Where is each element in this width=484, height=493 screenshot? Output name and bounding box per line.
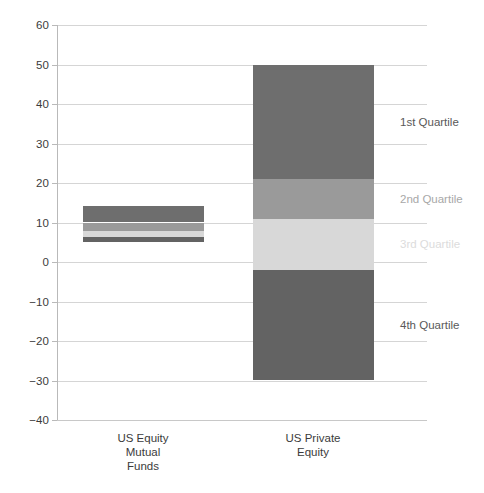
x-axis-label-us-private-equity: US Private Equity	[233, 431, 393, 459]
quartile-dispersion-chart: 6050403020100−10−20−30−40 US Equity Mutu…	[0, 0, 484, 493]
bar-segment-us-private-equity-1st-quartile	[253, 65, 374, 180]
legend-label-4th-quartile: 4th Quartile	[400, 319, 459, 331]
bar-group-us-private-equity	[253, 25, 374, 420]
y-axis-tick-label: 50	[9, 59, 49, 71]
gridline	[57, 420, 427, 421]
bar-segment-us-equity-mutual-funds-1st-quartile	[83, 206, 204, 223]
y-axis-tick-label: 10	[9, 217, 49, 229]
y-axis-tick-label: 60	[9, 19, 49, 31]
y-axis-tick-label: 20	[9, 177, 49, 189]
bar-segment-us-equity-mutual-funds-2nd-quartile	[83, 223, 204, 232]
bar-segment-us-private-equity-4th-quartile	[253, 270, 374, 381]
x-axis-label-us-equity-mutual-funds: US Equity Mutual Funds	[63, 431, 223, 473]
y-axis-tick-label: 30	[9, 138, 49, 150]
bar-segment-us-private-equity-2nd-quartile	[253, 179, 374, 219]
y-axis-tick-label: −20	[9, 335, 49, 347]
y-axis-tick-mark	[52, 420, 57, 421]
y-axis-tick-label: 0	[9, 256, 49, 268]
legend-label-3rd-quartile: 3rd Quartile	[400, 238, 460, 250]
y-axis-tick-label: 40	[9, 98, 49, 110]
bar-segment-us-private-equity-3rd-quartile	[253, 219, 374, 270]
y-axis-tick-label: −40	[9, 414, 49, 426]
y-axis-tick-label: −10	[9, 296, 49, 308]
legend-label-2nd-quartile: 2nd Quartile	[400, 193, 463, 205]
plot-area	[57, 25, 427, 420]
legend-label-1st-quartile: 1st Quartile	[400, 116, 459, 128]
bar-segment-us-equity-mutual-funds-4th-quartile	[83, 237, 204, 242]
bar-group-us-equity-mutual-funds	[83, 25, 204, 420]
y-axis-tick-label: −30	[9, 375, 49, 387]
